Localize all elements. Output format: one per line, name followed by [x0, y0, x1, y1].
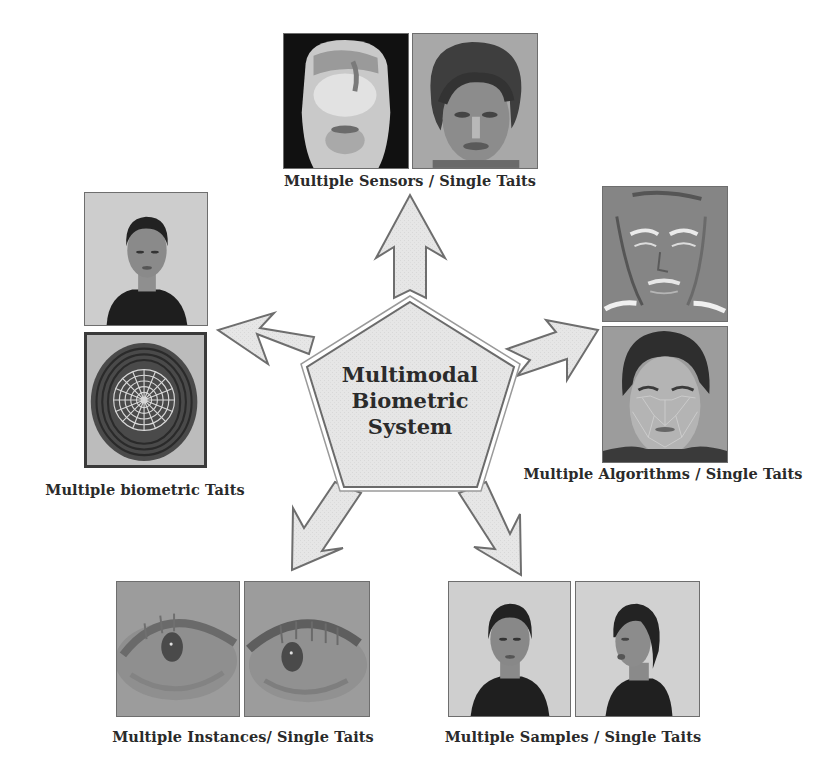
visible-face-icon	[413, 34, 537, 168]
edge-face-icon	[603, 187, 727, 321]
fingerprint-image	[84, 332, 207, 468]
landmark-face-image	[602, 326, 728, 463]
face-sample-turned-image	[575, 581, 700, 717]
arrow-left-icon	[218, 313, 314, 364]
caption-multiple-samples: Multiple Samples / Single Taits	[445, 728, 702, 745]
center-title-line-1: Multimodal	[342, 362, 479, 388]
center-title-line-2: Biometric	[342, 388, 479, 414]
arrow-down-left-icon	[292, 482, 361, 570]
thermal-face-icon	[284, 34, 408, 168]
frontal-face-icon	[85, 193, 207, 325]
eye-iris-icon	[117, 582, 239, 716]
arrow-up-icon	[376, 195, 445, 298]
face-sample-frontal-image	[448, 581, 571, 717]
fingerprint-icon	[87, 335, 204, 465]
eye-iris-icon	[245, 582, 369, 716]
center-title-line-3: System	[342, 414, 479, 440]
arrow-right-icon	[507, 320, 598, 380]
caption-multiple-algorithms: Multiple Algorithms / Single Taits	[523, 465, 802, 482]
person-frontal-icon	[449, 582, 570, 716]
caption-multiple-sensors: Multiple Sensors / Single Taits	[284, 172, 536, 189]
person-turned-icon	[576, 582, 699, 716]
center-title: Multimodal Biometric System	[342, 362, 479, 440]
caption-multiple-instances: Multiple Instances/ Single Taits	[112, 728, 374, 745]
landmark-face-icon	[603, 327, 727, 462]
right-eye-image	[244, 581, 370, 717]
edge-filtered-face-image	[602, 186, 728, 322]
multimodal-biometric-diagram: Multimodal Biometric System Mult	[0, 0, 838, 780]
visible-face-image	[412, 33, 538, 169]
frontal-face-image	[84, 192, 208, 326]
left-eye-image	[116, 581, 240, 717]
caption-multiple-biometric-traits: Multiple biometric Taits	[45, 481, 244, 498]
arrow-down-right-icon	[459, 482, 521, 575]
thermal-face-image	[283, 33, 409, 169]
